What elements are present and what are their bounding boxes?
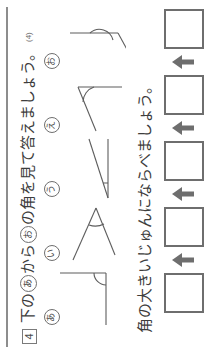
sequence-arrow-icon [164,247,204,273]
acute-angle-icon [56,201,126,265]
answer-sequence-row [160,9,208,339]
headline-text-middle: から [19,244,37,274]
sequence-arrow-icon [164,115,204,141]
page-top-rule [6,7,8,347]
angle-figure-row: あ い [44,13,126,329]
headline-text-before: 下の [19,293,37,323]
answer-box-2[interactable] [164,75,204,115]
angle-figure-u: う [44,137,126,201]
right-angle-icon [56,265,126,329]
worksheet-sheet: 4 下のあからおの角を見て答えましょう。 (4) あ い [0,0,221,353]
question-sub-marker: (4) [24,32,33,42]
narrow-angle-icon [56,137,126,201]
headline-circle-a: あ [20,275,37,292]
question-number-box: 4 [22,329,37,344]
angle-figure-o: お [44,9,126,73]
angle-figure-a: あ [44,265,126,329]
answer-box-1[interactable] [164,9,204,49]
headline-text-after: の角を見て答えましょう。 [19,46,37,225]
answer-box-3[interactable] [164,141,204,181]
worksheet-page: 4 下のあからおの角を見て答えましょう。 (4) あ い [0,0,221,353]
question-headline: 下のあからおの角を見て答えましょう。 [19,46,37,323]
instruction-subline: 角の大きいじゅんにならべましょう。 [136,79,154,333]
angle-figure-e: え [44,73,126,137]
headline-circle-b: お [20,226,37,243]
sequence-arrow-icon [164,181,204,207]
reflex-obtuse-angle-icon [56,9,126,73]
angle-figure-i: い [44,201,126,265]
answer-box-5[interactable] [164,273,204,313]
sequence-arrow-icon [164,49,204,75]
answer-box-4[interactable] [164,207,204,247]
obtuse-angle-icon [56,73,126,137]
